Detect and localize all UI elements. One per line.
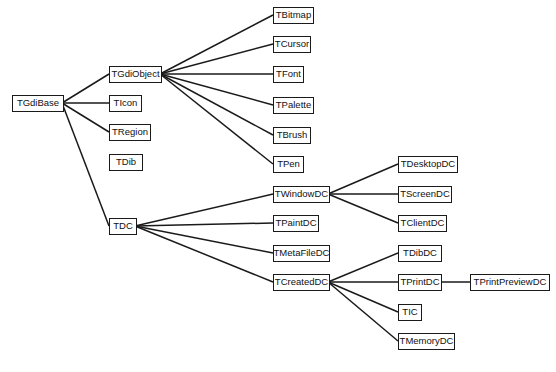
node-tfont: TFont bbox=[273, 66, 304, 83]
class-hierarchy-diagram: TGdiBaseTGdiObjectTIconTRegionTDibTDCTBi… bbox=[0, 0, 556, 372]
node-tmetafiledc: TMetaFileDC bbox=[273, 245, 330, 262]
edge-twindowdc-tdesktopdc bbox=[328, 164, 398, 194]
edge-tdc-tpaintdc bbox=[135, 223, 273, 226]
edge-tdc-tcreateddc bbox=[135, 226, 273, 282]
edge-tgdiobject-tpen bbox=[160, 74, 273, 164]
node-tcursor: TCursor bbox=[273, 36, 311, 53]
node-tic: TIC bbox=[398, 304, 422, 321]
edge-tcreateddc-tic bbox=[328, 282, 398, 312]
edge-tgdiobject-tcursor bbox=[160, 44, 273, 74]
node-tdibdc: TDibDC bbox=[398, 245, 442, 262]
edge-tgdiobject-tbitmap bbox=[160, 15, 273, 74]
edge-tgdibase-tregion bbox=[62, 103, 109, 132]
node-twindowdc: TWindowDC bbox=[273, 186, 330, 203]
edge-tcreateddc-tdibdc bbox=[328, 253, 398, 282]
edge-tcreateddc-tmemorydc bbox=[328, 282, 398, 341]
node-tmemorydc: TMemoryDC bbox=[398, 333, 455, 350]
node-tpalette: TPalette bbox=[273, 97, 314, 114]
node-tprintpreviewdc: TPrintPreviewDC bbox=[470, 274, 550, 291]
node-tgdibase: TGdiBase bbox=[12, 95, 64, 112]
edge-tgdiobject-tbrush bbox=[160, 74, 273, 135]
edge-tgdiobject-tpalette bbox=[160, 74, 273, 105]
edge-tgdibase-tdc bbox=[62, 103, 109, 226]
node-tdesktopdc: TDesktopDC bbox=[398, 156, 458, 173]
node-tcreateddc: TCreatedDC bbox=[273, 274, 330, 291]
node-tpaintdc: TPaintDC bbox=[273, 215, 319, 232]
node-tregion: TRegion bbox=[109, 124, 151, 141]
node-tpen: TPen bbox=[273, 156, 304, 173]
node-tbitmap: TBitmap bbox=[273, 7, 314, 24]
edge-tdc-tmetafiledc bbox=[135, 226, 273, 253]
edge-tdc-twindowdc bbox=[135, 194, 273, 226]
node-tclientdc: TClientDC bbox=[398, 215, 447, 232]
node-tdib: TDib bbox=[109, 154, 143, 171]
edge-twindowdc-tclientdc bbox=[328, 194, 398, 223]
node-tscreendc: TScreenDC bbox=[398, 186, 452, 203]
node-ticon: TIcon bbox=[109, 95, 142, 112]
edge-tgdibase-tgdiobject bbox=[62, 74, 109, 103]
node-tgdiobject: TGdiObject bbox=[109, 66, 162, 83]
node-tbrush: TBrush bbox=[273, 127, 311, 144]
node-tdc: TDC bbox=[109, 218, 137, 235]
node-tprintdc: TPrintDC bbox=[398, 274, 442, 291]
